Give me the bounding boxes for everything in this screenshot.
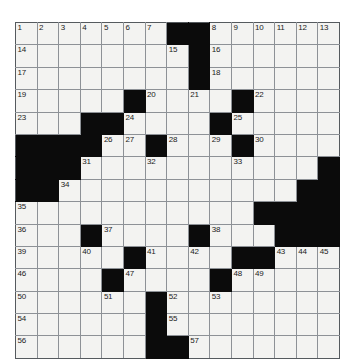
crossword-cell[interactable]: 15 [167,45,189,67]
crossword-cell[interactable] [275,134,297,156]
crossword-cell[interactable] [102,246,124,268]
crossword-cell[interactable] [318,269,340,291]
crossword-cell[interactable] [123,157,145,179]
crossword-cell[interactable] [37,269,59,291]
crossword-cell[interactable] [37,90,59,112]
crossword-cell[interactable] [231,336,253,358]
crossword-cell[interactable]: 4 [80,23,102,45]
crossword-cell[interactable] [80,336,102,358]
crossword-cell[interactable] [318,112,340,134]
crossword-cell[interactable] [59,269,81,291]
crossword-cell[interactable] [210,179,232,201]
crossword-cell[interactable] [123,179,145,201]
crossword-cell[interactable]: 13 [318,23,340,45]
crossword-cell[interactable]: 6 [123,23,145,45]
crossword-cell[interactable]: 26 [102,134,124,156]
crossword-cell[interactable]: 39 [16,246,38,268]
crossword-cell[interactable]: 20 [145,90,167,112]
crossword-cell[interactable] [318,291,340,313]
crossword-cell[interactable] [59,336,81,358]
crossword-cell[interactable]: 36 [16,224,38,246]
crossword-cell[interactable] [145,67,167,89]
crossword-cell[interactable]: 55 [167,314,189,336]
crossword-cell[interactable] [210,246,232,268]
crossword-cell[interactable] [188,314,210,336]
crossword-cell[interactable]: 48 [231,269,253,291]
crossword-cell[interactable]: 7 [145,23,167,45]
crossword-cell[interactable] [253,224,275,246]
crossword-cell[interactable] [80,314,102,336]
crossword-cell[interactable] [145,179,167,201]
crossword-cell[interactable]: 54 [16,314,38,336]
crossword-cell[interactable] [296,45,318,67]
crossword-cell[interactable] [253,157,275,179]
crossword-cell[interactable]: 46 [16,269,38,291]
crossword-cell[interactable] [296,314,318,336]
crossword-cell[interactable] [296,269,318,291]
crossword-cell[interactable]: 23 [16,112,38,134]
crossword-cell[interactable]: 11 [275,23,297,45]
crossword-cell[interactable] [102,157,124,179]
crossword-cell[interactable]: 41 [145,246,167,268]
crossword-cell[interactable]: 40 [80,246,102,268]
crossword-cell[interactable] [296,336,318,358]
crossword-cell[interactable] [59,314,81,336]
crossword-cell[interactable] [59,112,81,134]
crossword-cell[interactable] [80,269,102,291]
crossword-cell[interactable] [37,45,59,67]
crossword-cell[interactable] [275,157,297,179]
crossword-cell[interactable]: 56 [16,336,38,358]
crossword-cell[interactable] [253,179,275,201]
crossword-cell[interactable] [253,291,275,313]
crossword-cell[interactable] [167,224,189,246]
crossword-cell[interactable] [275,45,297,67]
crossword-cell[interactable] [231,202,253,224]
crossword-cell[interactable] [231,224,253,246]
crossword-cell[interactable] [123,202,145,224]
crossword-cell[interactable] [275,291,297,313]
crossword-cell[interactable] [123,291,145,313]
crossword-cell[interactable] [167,179,189,201]
crossword-cell[interactable] [37,336,59,358]
crossword-cell[interactable]: 8 [210,23,232,45]
crossword-cell[interactable] [37,314,59,336]
crossword-cell[interactable] [123,336,145,358]
crossword-cell[interactable] [231,291,253,313]
crossword-cell[interactable] [275,179,297,201]
crossword-cell[interactable]: 43 [275,246,297,268]
crossword-cell[interactable]: 34 [59,179,81,201]
crossword-cell[interactable] [188,112,210,134]
crossword-cell[interactable]: 35 [16,202,38,224]
crossword-cell[interactable]: 52 [167,291,189,313]
crossword-cell[interactable] [210,157,232,179]
crossword-cell[interactable] [318,134,340,156]
crossword-cell[interactable]: 30 [253,134,275,156]
crossword-cell[interactable] [275,269,297,291]
crossword-cell[interactable]: 1 [16,23,38,45]
crossword-cell[interactable]: 57 [188,336,210,358]
crossword-cell[interactable] [80,67,102,89]
crossword-cell[interactable]: 28 [167,134,189,156]
crossword-cell[interactable] [59,90,81,112]
crossword-cell[interactable]: 31 [80,157,102,179]
crossword-cell[interactable] [318,314,340,336]
crossword-cell[interactable] [167,157,189,179]
crossword-cell[interactable] [275,112,297,134]
crossword-cell[interactable] [188,157,210,179]
crossword-cell[interactable] [253,67,275,89]
crossword-cell[interactable] [188,134,210,156]
crossword-cell[interactable] [296,157,318,179]
crossword-cell[interactable] [275,67,297,89]
crossword-cell[interactable] [102,314,124,336]
crossword-cell[interactable] [210,202,232,224]
crossword-cell[interactable] [102,179,124,201]
crossword-cell[interactable]: 9 [231,23,253,45]
crossword-cell[interactable] [145,45,167,67]
crossword-cell[interactable] [102,202,124,224]
crossword-cell[interactable] [210,336,232,358]
crossword-cell[interactable]: 29 [210,134,232,156]
crossword-cell[interactable] [167,67,189,89]
crossword-cell[interactable] [210,314,232,336]
crossword-cell[interactable]: 10 [253,23,275,45]
crossword-cell[interactable]: 25 [231,112,253,134]
